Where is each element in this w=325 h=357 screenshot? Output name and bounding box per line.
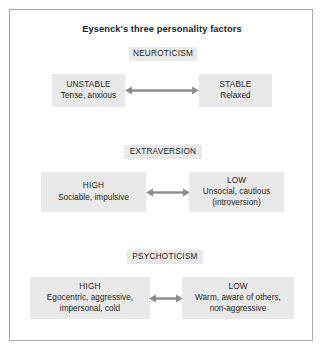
pole-heading: HIGH (79, 282, 100, 293)
pole-heading: STABLE (220, 80, 252, 91)
double-headed-arrow-psychoticism (149, 293, 183, 304)
pole-description: Tense, anxious (61, 91, 116, 102)
pole-box-unstable: UNSTABLE Tense, anxious (52, 74, 125, 107)
pole-box-psychoticism-low: LOW Warm, aware of others, non-aggressiv… (182, 277, 294, 319)
pole-description: Relaxed (220, 91, 250, 102)
pole-heading: LOW (228, 282, 247, 293)
factor-label-extraversion: EXTRAVERSION (124, 145, 202, 159)
factor-label-psychoticism: PSYCHOTICISM (127, 250, 203, 264)
factor-label-neuroticism: NEUROTICISM (129, 47, 197, 61)
pole-description: Sociable, impulsive (58, 193, 129, 204)
pole-box-extraversion-low: LOW Unsocial, cautious (introversion) (189, 172, 284, 212)
pole-heading: LOW (227, 176, 246, 187)
pole-box-extraversion-high: HIGH Sociable, impulsive (41, 172, 146, 212)
diagram-frame: Eysenck's three personality factors NEUR… (9, 9, 313, 341)
pole-heading: UNSTABLE (66, 80, 110, 91)
pole-box-stable: STABLE Relaxed (199, 74, 272, 107)
pole-description: Warm, aware of others, non-aggressive (195, 293, 281, 314)
pole-heading: HIGH (83, 181, 104, 192)
pole-description: Egocentric, aggressive, impersonal, cold (47, 293, 133, 314)
pole-description: Unsocial, cautious (introversion) (203, 187, 270, 208)
pole-box-psychoticism-high: HIGH Egocentric, aggressive, impersonal,… (30, 277, 150, 319)
double-headed-arrow-extraversion (146, 187, 190, 198)
double-headed-arrow-neuroticism (125, 85, 199, 96)
page-title: Eysenck's three personality factors (10, 24, 314, 34)
